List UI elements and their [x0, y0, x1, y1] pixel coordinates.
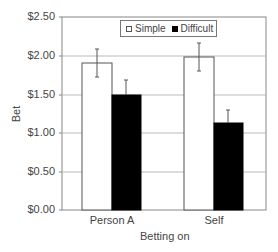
y-tick-label: $2.50 [5, 10, 55, 22]
bar-self-simple [184, 57, 214, 210]
y-tick-label: $2.00 [5, 49, 55, 61]
legend-label-difficult: Difficult [181, 23, 214, 34]
legend-swatch-difficult [172, 26, 178, 32]
y-axis-title: Bet [10, 106, 22, 123]
legend-label-simple: Simple [135, 23, 166, 34]
x-axis-title: Betting on [140, 230, 190, 242]
y-tick-label: $1.00 [5, 126, 55, 138]
y-tick-label: $0.50 [5, 165, 55, 177]
legend: Simple Difficult [120, 20, 217, 37]
legend-swatch-simple [126, 26, 132, 32]
bar-person-a-difficult [112, 95, 141, 210]
bar-person-a-simple [82, 63, 112, 210]
y-tick-label: $0.00 [5, 203, 55, 215]
x-tick-label-person-a: Person A [72, 214, 152, 226]
bar-self-difficult [214, 123, 243, 210]
x-tick-label-self: Self [174, 214, 254, 226]
y-tick-label: $1.50 [5, 88, 55, 100]
